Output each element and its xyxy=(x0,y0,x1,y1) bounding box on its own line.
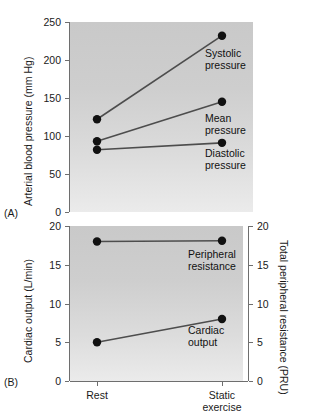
panel-b-y-axis-left-line xyxy=(69,226,70,381)
panel-a-ticklabel-0: 0 xyxy=(28,207,61,218)
panel-b-right-tick-0 xyxy=(249,381,253,382)
panel-b-right-tick-15 xyxy=(249,265,253,266)
panel-a-y-axis-title: Arterial blood pressure (mm Hg) xyxy=(22,57,34,206)
panel-b-right-ticklabel-0: 0 xyxy=(257,376,263,387)
panel-b-right-ticklabel-10: 10 xyxy=(257,299,269,310)
panel-b-left-tick-10 xyxy=(65,304,69,305)
panel-b-left-ticklabel-0: 0 xyxy=(28,376,61,387)
panel-b-left-ticklabel-20: 20 xyxy=(28,221,61,232)
panel-b-left-tick-20 xyxy=(65,226,69,227)
panel-b-right-ticklabel-5: 5 xyxy=(257,337,263,348)
panel-b-letter: (B) xyxy=(4,376,18,388)
panel-a-tick-150 xyxy=(65,98,69,99)
panel-a-tick-50 xyxy=(65,174,69,175)
panel-b-left-tick-15 xyxy=(65,265,69,266)
panel-b-y-axis-title-left: Cardiac output (L/min) xyxy=(22,259,34,363)
panel-b-right-tick-5 xyxy=(249,342,253,343)
annotation-peripheral-resistance: Peripheral resistance xyxy=(188,249,236,272)
panel-a-tick-250 xyxy=(65,22,69,23)
annotation-diastolic-pressure: Diastolic pressure xyxy=(205,148,246,171)
panel-a-y-axis-line xyxy=(69,22,70,212)
panel-a-tick-0 xyxy=(65,212,69,213)
panel-b-right-ticklabel-15: 15 xyxy=(257,260,269,271)
panel-a-ticklabel-250: 250 xyxy=(28,17,61,28)
figure-container: 250 200 150 100 50 0 Arterial blood pres… xyxy=(0,0,310,419)
panel-a-letter: (A) xyxy=(4,207,18,219)
panel-a-tick-200 xyxy=(65,60,69,61)
x-tick-rest xyxy=(97,382,98,386)
panel-b-right-tick-10 xyxy=(249,304,253,305)
panel-b-y-axis-title-right: Total peripheral resistance (PRU) xyxy=(278,240,290,395)
panel-b-left-tick-0 xyxy=(65,381,69,382)
annotation-systolic-pressure: Systolic pressure xyxy=(205,48,246,71)
panel-b-left-tick-5 xyxy=(65,342,69,343)
annotation-cardiac-output: Cardiac output xyxy=(188,325,224,348)
annotation-mean-pressure: Mean pressure xyxy=(205,113,246,136)
x-category-label-static-exercise: Static exercise xyxy=(197,390,247,413)
panel-b-right-tick-20 xyxy=(249,226,253,227)
x-tick-static-exercise xyxy=(222,382,223,386)
x-category-label-rest: Rest xyxy=(72,390,122,402)
panel-b-right-ticklabel-20: 20 xyxy=(257,221,269,232)
panel-a-tick-100 xyxy=(65,136,69,137)
